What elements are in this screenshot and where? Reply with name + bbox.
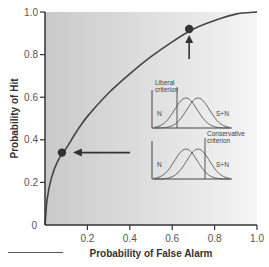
x-axis-title: Probability of False Alarm xyxy=(90,248,213,259)
y-tick-label: 1.0 xyxy=(24,7,38,18)
noise-label: N xyxy=(157,110,162,117)
signal-plus-noise-label: S+N xyxy=(216,161,229,168)
y-tick-label: 0 xyxy=(31,220,37,231)
y-tick-label: 0.8 xyxy=(24,49,38,60)
x-tick-label: 0.8 xyxy=(208,233,222,244)
y-tick-label: 0.2 xyxy=(24,177,38,188)
x-tick-label: 0.6 xyxy=(165,233,179,244)
x-tick-label: 1.0 xyxy=(250,233,264,244)
y-tick-label: 0.4 xyxy=(24,134,38,145)
y-axis-title: Probability of Hit xyxy=(9,78,20,159)
y-tick-label: 0.6 xyxy=(24,92,38,103)
plot-background xyxy=(45,12,257,225)
roc-chart: 00.20.40.60.81.0 0.20.40.60.81.0 Liberal… xyxy=(0,0,269,267)
footer-rule xyxy=(8,252,63,253)
conservative-criterion-point xyxy=(58,148,66,156)
liberal-criterion-point xyxy=(185,25,193,33)
criterion-label-line2: criterion xyxy=(207,137,231,144)
criterion-label-line1: Liberal xyxy=(155,79,175,86)
x-tick-label: 0.2 xyxy=(80,233,94,244)
criterion-label-line2: criterion xyxy=(155,86,179,93)
x-tick-label: 0.4 xyxy=(123,233,137,244)
criterion-label-line1: Conservative xyxy=(207,130,245,137)
signal-plus-noise-label: S+N xyxy=(216,110,229,117)
noise-label: N xyxy=(157,161,162,168)
